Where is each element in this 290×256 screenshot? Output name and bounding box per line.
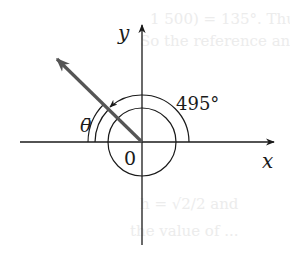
angle-value-label: 495° bbox=[176, 93, 219, 114]
angle-diagram: y x 0 495° θ̄ bbox=[0, 0, 290, 256]
reference-angle-arc bbox=[95, 110, 108, 142]
reference-angle-label: θ̄ bbox=[80, 114, 92, 136]
terminal-ray bbox=[57, 59, 142, 142]
x-axis-label: x bbox=[262, 149, 273, 173]
origin-label: 0 bbox=[124, 147, 136, 169]
y-axis-label: y bbox=[117, 21, 130, 45]
